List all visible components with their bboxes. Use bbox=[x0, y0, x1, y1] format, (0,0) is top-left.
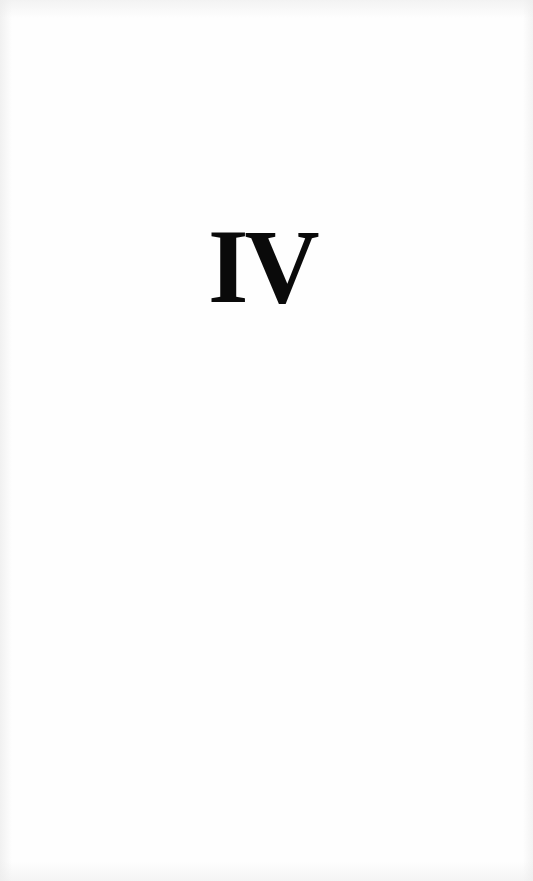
book-page: IV bbox=[0, 0, 533, 881]
chapter-numeral: IV bbox=[208, 214, 316, 320]
